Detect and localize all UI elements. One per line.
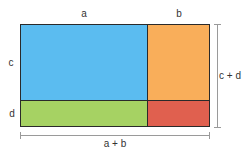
height-dimension-cap-bottom [214,127,221,128]
width-dimension-cap-left [20,132,21,139]
width-dimension-line [20,135,210,136]
label-a: a [81,9,87,19]
vertical-divider [147,24,148,127]
label-c: c [9,58,14,68]
label-c-plus-d: c + d [219,71,241,81]
label-d: d [9,109,15,119]
horizontal-divider [20,100,210,101]
label-b: b [176,9,182,19]
outer-frame [20,24,210,127]
label-a-plus-b: a + b [104,139,127,149]
height-dimension-cap-top [214,24,221,25]
height-dimension-line [217,24,218,127]
width-dimension-cap-right [209,132,210,139]
